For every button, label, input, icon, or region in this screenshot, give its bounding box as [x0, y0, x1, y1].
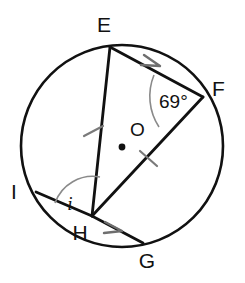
arrow-on-EF [141, 55, 160, 66]
vertex-label-I: I [11, 180, 17, 203]
angle-label-69-degrees: 69° [159, 91, 188, 112]
arrow-on-HG [104, 222, 122, 233]
center-label-O: O [130, 119, 145, 140]
angle-label-i: i [67, 193, 72, 214]
vertex-label-H: H [72, 221, 87, 244]
vertex-label-E: E [97, 13, 111, 36]
vertex-label-F: F [212, 77, 225, 100]
angle-arc-at-F [150, 75, 159, 127]
center-dot [119, 144, 126, 151]
vertex-label-G: G [139, 249, 155, 272]
geometry-canvas: O E F G H I 69° i [0, 0, 245, 283]
geometry-figure: O E F G H I 69° i [0, 0, 245, 283]
